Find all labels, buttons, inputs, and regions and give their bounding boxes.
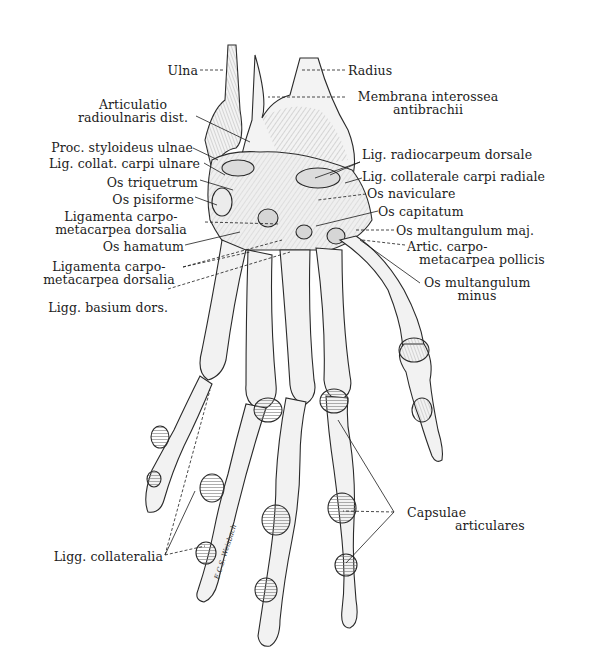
- metacarpal-2: [316, 248, 351, 400]
- label-proc-styloideus: Proc. styloideus ulnae: [51, 141, 193, 154]
- label-text: Lig. collaterale carpi radiale: [362, 170, 545, 183]
- label-lig-collaterale-carpi-radiale: Lig. collaterale carpi radiale: [362, 170, 545, 183]
- label-text: metacarpea pollicis: [419, 253, 545, 266]
- label-text: Ulna: [168, 64, 198, 77]
- label-os-multangulum-minus: Os multangulumminus: [424, 276, 530, 302]
- label-text: Os triquetrum: [107, 176, 198, 189]
- label-text: Ligg. collateralia: [54, 550, 163, 563]
- metacarpal-5: [200, 240, 246, 380]
- os-pisiforme-shape: [212, 188, 232, 216]
- label-radius: Radius: [348, 64, 392, 77]
- label-text: Radius: [348, 64, 392, 77]
- label-text: Os pisiforme: [112, 193, 194, 206]
- label-artic-carpometacarpea-pollicis: Artic. carpo-metacarpea pollicis: [407, 240, 545, 266]
- label-ligamenta-carpometacarpea-2: Ligamenta carpo-metacarpea dorsalia: [34, 260, 184, 286]
- label-os-capitatum: Os capitatum: [378, 205, 464, 218]
- label-text: Proc. styloideus ulnae: [51, 141, 193, 154]
- metacarpal-3: [280, 250, 315, 404]
- label-os-pisiforme: Os pisiforme: [112, 193, 194, 206]
- label-articulatio-radioulnaris: Articulatioradioulnaris dist.: [68, 98, 198, 124]
- label-text: Os hamatum: [103, 240, 184, 253]
- os-naviculare-recess: [296, 168, 340, 188]
- label-os-triquetrum: Os triquetrum: [107, 176, 198, 189]
- label-os-multangulum-maj: Os multangulum maj.: [396, 224, 534, 237]
- label-text: Lig. radiocarpeum dorsale: [362, 148, 532, 161]
- metacarpal-4: [246, 250, 276, 410]
- label-text: articulares: [455, 519, 525, 532]
- phalanx-ring: [197, 404, 266, 602]
- label-text: antibrachii: [352, 103, 504, 116]
- label-os-naviculare: Os naviculare: [367, 187, 455, 200]
- label-lig-collat-carpi-ulnare: Lig. collat. carpi ulnare: [49, 157, 200, 170]
- label-ulna: Ulna: [168, 64, 198, 77]
- label-ligg-basium-dors: Ligg. basium dors.: [48, 301, 168, 314]
- label-text: minus: [424, 289, 530, 302]
- label-text: Ligg. basium dors.: [48, 301, 168, 314]
- label-lig-radiocarpeum-dorsale: Lig. radiocarpeum dorsale: [362, 148, 532, 161]
- label-text: Os capitatum: [378, 205, 464, 218]
- label-text: metacarpea dorsalia: [34, 273, 184, 286]
- label-text: metacarpea dorsalia: [48, 223, 194, 236]
- label-ligg-collateralia: Ligg. collateralia: [54, 550, 163, 563]
- label-os-hamatum: Os hamatum: [103, 240, 184, 253]
- label-text: Os multangulum maj.: [396, 224, 534, 237]
- label-text: Lig. collat. carpi ulnare: [49, 157, 200, 170]
- label-membrana-interossea: Membrana interosseaantibrachii: [352, 90, 504, 116]
- label-text: Os naviculare: [367, 187, 455, 200]
- label-ligamenta-carpometacarpea-1: Ligamenta carpo-metacarpea dorsalia: [48, 210, 194, 236]
- os-lunatum-recess: [222, 160, 254, 176]
- label-capsulae-articulares: Capsulaearticulares: [407, 506, 525, 532]
- label-text: radioulnaris dist.: [68, 111, 198, 124]
